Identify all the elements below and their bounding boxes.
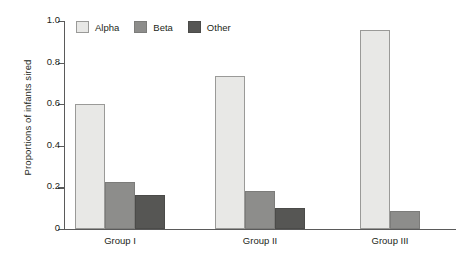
plot-area: 00.20.40.60.81.0 Group IGroup IIGroup II… <box>64 21 456 229</box>
x-axis-line <box>64 229 456 230</box>
bar-alpha-group-2 <box>215 76 245 229</box>
bar-other-group-2 <box>275 208 305 229</box>
y-tick-label: 0.2 <box>47 180 60 191</box>
y-axis-label: Proportions of infants sired <box>22 28 33 208</box>
y-tick-label: 0 <box>55 222 60 233</box>
y-tick-label: 0.4 <box>47 139 60 150</box>
legend-item-beta[interactable]: Beta <box>134 21 173 33</box>
bar-chart-figure: Proportions of infants sired 00.20.40.60… <box>0 0 466 272</box>
x-tick-label-group-3: Group III <box>372 235 409 246</box>
y-tick-label: 0.8 <box>47 56 60 67</box>
bar-beta-group-2 <box>245 191 275 229</box>
bar-beta-group-3 <box>390 211 420 229</box>
legend-label-beta: Beta <box>153 22 173 33</box>
chart-legend: AlphaBetaOther <box>76 21 231 33</box>
y-tick-label: 0.6 <box>47 97 60 108</box>
legend-label-other: Other <box>207 22 231 33</box>
y-tick-label: 1.0 <box>47 14 60 25</box>
bar-alpha-group-3 <box>360 30 390 229</box>
x-tick-label-group-2: Group II <box>243 235 277 246</box>
legend-item-alpha[interactable]: Alpha <box>76 21 119 33</box>
x-tick-label-group-1: Group I <box>104 235 136 246</box>
legend-swatch-beta-icon <box>134 21 147 33</box>
legend-label-alpha: Alpha <box>95 22 119 33</box>
y-axis-line <box>64 21 65 229</box>
bar-beta-group-1 <box>105 182 135 229</box>
bar-other-group-1 <box>135 195 165 229</box>
legend-item-other[interactable]: Other <box>188 21 231 33</box>
legend-swatch-alpha-icon <box>76 21 89 33</box>
bar-alpha-group-1 <box>75 104 105 229</box>
legend-swatch-other-icon <box>188 21 201 33</box>
